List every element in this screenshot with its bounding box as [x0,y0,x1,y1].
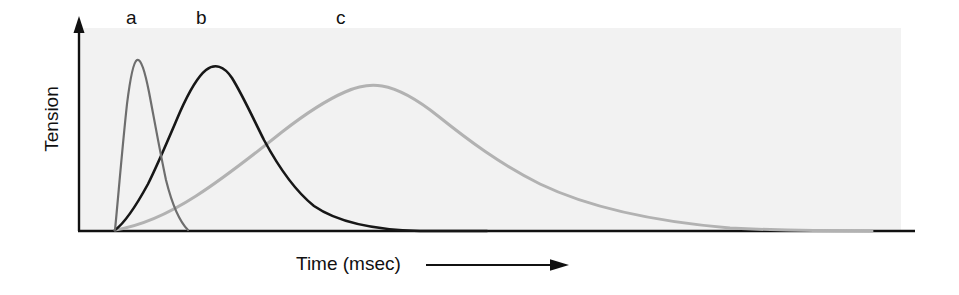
arrow-up-icon [74,16,85,33]
curve-label-b: b [196,8,207,27]
plot-background-panel [79,28,901,230]
arrow-right-icon [550,259,569,271]
tension-time-figure: a b c Tension Time (msec) [0,0,959,295]
y-axis-title: Tension [41,59,63,179]
curve-label-c: c [336,8,346,27]
x-axis-direction-arrow [424,253,574,277]
x-axis-title: Time (msec) [296,253,401,275]
plot-area [0,0,959,295]
curve-label-a: a [126,8,137,27]
